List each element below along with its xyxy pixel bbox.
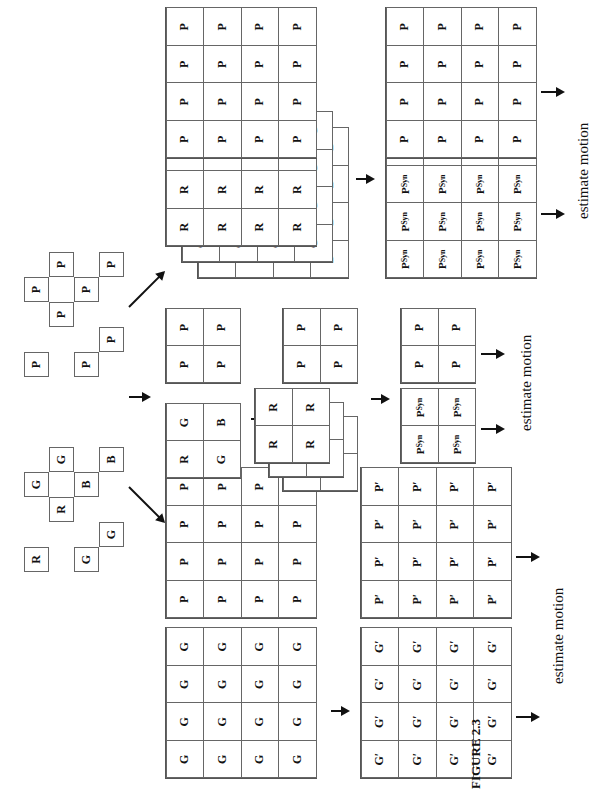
grid-cell: P′ [361, 580, 400, 619]
figure-caption: FIGURE 2.3 [468, 719, 484, 789]
arrow-to-subsampled-branch [129, 396, 149, 398]
grid-cell: G [203, 441, 241, 479]
grid-cell: P [278, 45, 317, 84]
grid-cell: R [255, 389, 293, 427]
grid-cell: R [203, 171, 242, 210]
grid-cell: G [203, 628, 242, 667]
grid-cell: G′ [398, 628, 437, 667]
grid-cell: P′ [436, 543, 475, 582]
grid-cell: P [498, 45, 537, 84]
pan-mosaic-cell: P [99, 252, 124, 277]
rgb-mosaic-cell: B [99, 447, 124, 472]
arrow-estimate-p-full [541, 91, 563, 93]
grid-cell: G [166, 703, 205, 742]
grid-cell: P [320, 309, 358, 347]
rgb-mosaic-cell: G [24, 472, 49, 497]
grid-cell: PSyn [386, 240, 425, 279]
arrow-to-syn-mid [371, 398, 388, 400]
grid-cell: P [278, 8, 317, 47]
grid-cell: P [423, 45, 462, 84]
grid-cell: B [203, 404, 241, 442]
pan-mosaic-cell: P [49, 302, 74, 327]
arrow-estimate-p [516, 556, 538, 558]
grid-cell: R [278, 208, 317, 247]
estimate-motion-label-right: estimate motion [575, 123, 592, 219]
grid-cell: P [461, 120, 500, 159]
grid-cell: P [461, 8, 500, 47]
grid-cell: P [241, 505, 280, 544]
grid-cell: PSyn [498, 203, 537, 242]
pan-block: PPPP [165, 308, 241, 384]
grid-cell: G′ [436, 628, 475, 667]
rgb-mosaic-cell: R [24, 547, 49, 572]
grid-cell: P [203, 45, 242, 84]
grid-cell: P [423, 83, 462, 122]
arrow-to-syn-full [356, 178, 373, 180]
pan-block-2: PPPP [282, 308, 358, 384]
grid-cell: G′ [361, 703, 400, 742]
grid-cell: P [166, 580, 205, 619]
stack-layer-R: RRRR [254, 388, 330, 464]
pan-mosaic-cell: P [24, 277, 49, 302]
grid-cell: G′ [398, 740, 437, 779]
pan-mosaic-cell: P [74, 277, 99, 302]
grid-cell: P [203, 120, 242, 159]
grid-cell: G [166, 665, 205, 704]
grid-cell: G′ [473, 628, 512, 667]
grid-cell: P′ [361, 543, 400, 582]
grid-cell: P [203, 83, 242, 122]
grid-cell: G [166, 628, 205, 667]
grid-cell: P [320, 346, 358, 384]
grid-cell: P′ [398, 505, 437, 544]
grid-cell: PSyn [461, 165, 500, 204]
grid-cell: G′ [436, 665, 475, 704]
grid-cell: G [278, 703, 317, 742]
grid-cell: R [292, 389, 330, 427]
grid-cell: PSyn [401, 426, 439, 464]
grid-cell: P′ [473, 580, 512, 619]
grid-cell: P′ [398, 543, 437, 582]
grid-cell: P [203, 505, 242, 544]
grid-cell: P [423, 120, 462, 159]
rgb-mosaic-cell: G [74, 547, 99, 572]
grid-cell: R [278, 171, 317, 210]
pan-mosaic-cell: P [49, 252, 74, 277]
grid-cell: PSyn [498, 165, 537, 204]
grid-cell: P [438, 309, 476, 347]
grid-cell: P [203, 346, 241, 384]
grid-cell: R [255, 426, 293, 464]
grid-cell: G [203, 703, 242, 742]
rgb-mosaic-cell: G [99, 522, 124, 547]
grid-cell: G [241, 740, 280, 779]
grid-cell: P [241, 543, 280, 582]
arrow-estimate-syn-full [541, 213, 563, 215]
grid-cell: P′ [473, 505, 512, 544]
grid-cell: P [461, 83, 500, 122]
grid-cell: PSyn [498, 240, 537, 279]
grid-cell: P [498, 83, 537, 122]
grid-cell: G [278, 628, 317, 667]
grid-cell: P′ [436, 468, 475, 507]
grid-cell: P [166, 45, 205, 84]
grid-cell: PSyn [401, 389, 439, 427]
green-grid: GGGGGGGGGGGGGGGG [165, 627, 317, 779]
grid-cell: P [423, 8, 462, 47]
grid-cell: P [278, 120, 317, 159]
grid-cell: P′ [398, 580, 437, 619]
grid-cell: P [166, 120, 205, 159]
grid-cell: G′ [398, 703, 437, 742]
grid-cell: P [401, 309, 439, 347]
grid-cell: R [166, 208, 205, 247]
pan-mosaic-cell: P [74, 352, 99, 377]
grid-cell: PSyn [386, 203, 425, 242]
pan-mosaic-cell: P [99, 327, 124, 352]
grid-cell: R [292, 426, 330, 464]
rgb-mosaic-cell: B [74, 472, 99, 497]
grid-cell: P [278, 543, 317, 582]
grid-cell: P′ [473, 468, 512, 507]
grid-cell: P [438, 346, 476, 384]
grid-cell: P [241, 580, 280, 619]
grid-cell: PSyn [438, 389, 476, 427]
pan-block-3: PPPP [400, 308, 476, 384]
